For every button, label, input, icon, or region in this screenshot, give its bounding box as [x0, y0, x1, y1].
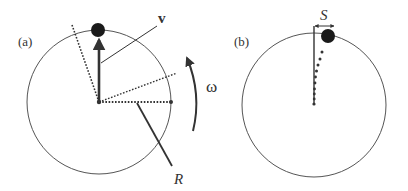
- velocity-leader-line: [101, 26, 157, 63]
- dotted-radius-upper-right: [99, 73, 177, 102]
- velocity-label: v: [158, 10, 166, 26]
- dotted-radius-upper-left: [72, 25, 99, 102]
- panel-b-label: (b): [234, 34, 249, 49]
- rotating-frame-diagram: (a) v R ω (b) S: [0, 0, 408, 191]
- angular-velocity-label: ω: [206, 77, 217, 96]
- ball-icon-b: [321, 29, 335, 43]
- radius-label: R: [173, 171, 183, 187]
- radius-leader-line: [137, 103, 172, 166]
- panel-a-label: (a): [18, 34, 32, 49]
- radius-endpoint-dot: [169, 100, 173, 104]
- rotation-arrow-icon: [187, 58, 196, 131]
- panel-a: (a) v R ω: [18, 10, 217, 187]
- ball-icon: [91, 23, 105, 37]
- displacement-label: S: [320, 7, 328, 23]
- panel-b: (b) S: [234, 7, 386, 177]
